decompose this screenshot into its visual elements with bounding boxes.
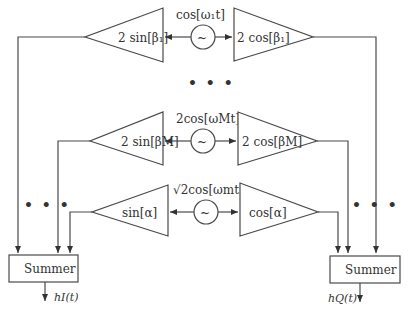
output-hI-label: hI(t) [54,291,78,304]
oscillator-M-symbol: ~ [197,135,207,149]
summer-left-label: Summer [24,262,76,276]
gain-right-M-label: 2 cos[βM] [242,135,302,149]
summer-right-label: Summer [345,263,397,277]
summer-left: Summer hI(t) [9,255,78,304]
wire-left-m [70,212,92,253]
ellipsis-middle: • • • [188,75,235,91]
oscillator-m-label: √2cos[ωmt] [173,183,244,197]
wire-right-M [317,141,348,253]
ellipsis-right: • • • [352,197,399,213]
oscillator-M-label: 2cos[ωMt] [176,112,240,126]
gain-right-1-label: 2 cos[β₁] [237,31,290,45]
oscillator-m-symbol: ~ [200,206,210,220]
summer-right: Summer hQ(t) [328,256,400,305]
ellipsis-left: • • • [24,197,71,213]
wire-right-1 [313,37,376,253]
wire-left-1 [18,37,85,253]
gain-left-M-label: 2 sin[βM] [121,135,179,149]
gain-right-m-label: cos[α] [249,206,287,220]
wire-right-m [318,212,338,253]
gain-left-m-label: sin[α] [122,206,157,220]
oscillator-1-label: cos[ω₁t] [176,8,225,22]
branch-m: sin[α] ~ √2cos[ωmt] cos[α] [70,183,338,253]
gain-left-1-label: 2 sin[β₁] [118,31,168,45]
sum-of-sinusoids-block-diagram: 2 sin[β₁] ~ cos[ω₁t] 2 cos[β₁] • • • 2 s… [0,0,409,313]
output-hQ-label: hQ(t) [328,292,357,305]
oscillator-1-symbol: ~ [197,31,207,45]
